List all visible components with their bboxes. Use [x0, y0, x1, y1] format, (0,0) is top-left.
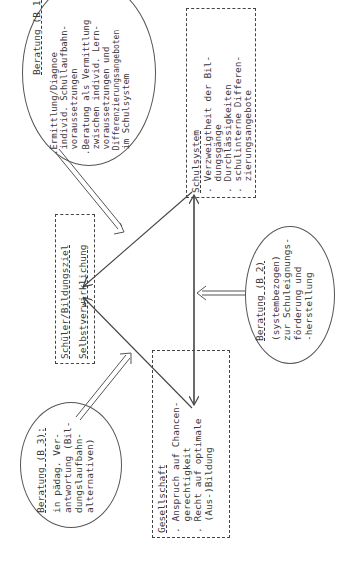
- schulsystem-box: Schulsystem . Verzweigtheit der Bil- dun…: [186, 8, 256, 198]
- b1-title: Beratung (B 1): [31, 0, 42, 75]
- gesellschaft-item-2: gerechtigkeit: [181, 447, 192, 533]
- gesellschaft-item-4: (Aus-)Bildung: [203, 447, 214, 533]
- b2-arrow-head: [197, 286, 206, 300]
- schueler-subtitle: Selbstverwirklichung: [77, 245, 88, 359]
- gesellschaft-title: Gesellschaft: [156, 464, 167, 533]
- b2-line-2: zur Schuleignungs-: [281, 238, 292, 341]
- b3-title: Beratung (B 3):: [35, 427, 46, 513]
- b3-line-2: antwortung (Bil-: [62, 421, 73, 513]
- diagram-canvas: Schüler/Bildungsziel Selbstverwirklichun…: [0, 0, 358, 564]
- beratung-b3-ellipse: Beratung (B 3): in pädag. Ver- antwortun…: [20, 402, 122, 528]
- arrow-schulsystem-to-schueler: [84, 192, 192, 286]
- beratung-b2-ellipse: Beratung (B 2) (systembezogen) zur Schul…: [245, 226, 335, 364]
- schueler-box: Schüler/Bildungsziel Selbstverwirklichun…: [55, 214, 95, 364]
- b1-line-8: im Schulsystem: [121, 74, 132, 155]
- schulsystem-title: Schulsystem: [190, 130, 201, 193]
- b1-arrow-head: [114, 223, 124, 234]
- b2-title: Beratung (B 2): [254, 261, 265, 341]
- gesellschaft-item-3: . Recht auf optimale: [192, 419, 203, 533]
- schulsystem-item-5: zierungsangebote: [242, 90, 253, 193]
- b2-line-1: (systembezogen): [270, 255, 281, 341]
- b2-line-3: förderung und: [292, 267, 303, 341]
- b3-line-1: in pädag. Ver-: [51, 433, 62, 513]
- schueler-title: Schüler/Bildungsziel: [59, 245, 70, 359]
- b1-line-3: voraussetzungen: [69, 68, 80, 155]
- gesellschaft-item-1: . Anspruch auf Chancen-: [170, 401, 181, 533]
- b3-line-4: alternativen): [84, 439, 95, 513]
- gesellschaft-box: Gesellschaft . Anspruch auf Chancen- ger…: [152, 350, 230, 538]
- b2-line-4: -herstellung: [303, 272, 314, 341]
- b3-line-3: dungslaufbahn-: [73, 433, 84, 513]
